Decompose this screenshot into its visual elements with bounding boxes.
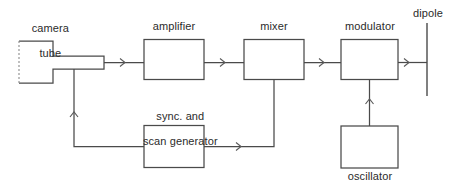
wire-modulator-to-dipole (398, 59, 427, 67)
wire-camera-to-amplifier (104, 59, 144, 67)
modulator-block (341, 40, 398, 80)
mixer-label: mixer (239, 20, 309, 33)
oscillator-label: oscillator (332, 170, 408, 183)
amplifier-block (144, 40, 204, 80)
amplifier-label: amplifier (134, 20, 214, 33)
modulator-label: modulator (330, 20, 410, 33)
sync-scan-label-line2: scan generator (143, 135, 218, 147)
oscillator-block (341, 126, 398, 168)
sync-scan-label-line1: sync. and (156, 110, 204, 122)
mixer-block (244, 40, 304, 80)
sync-scan-generator-label: sync. and scan generator (120, 97, 228, 160)
camera-tube-label-line2: tube (39, 47, 61, 59)
wire-oscillator-to-modulator (366, 80, 374, 127)
wire-amplifier-to-mixer (204, 59, 244, 67)
camera-tube-label: camera tube (9, 9, 79, 72)
block-diagram: camera tube amplifier mixer modulator di… (0, 0, 457, 189)
dipole-label: dipole (402, 7, 454, 20)
camera-tube-label-line1: camera (32, 22, 69, 34)
wire-mixer-to-modulator (304, 59, 341, 67)
